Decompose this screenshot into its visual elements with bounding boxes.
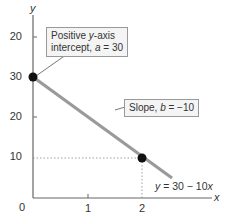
intercept-callout-line-1: Positive y-axis xyxy=(51,30,123,42)
intercept-callout-line-2: intercept, a = 30 xyxy=(51,42,123,54)
linear-equation-chart: y x 20 30 20 10 0 1 2 Positive y-axis in… xyxy=(0,0,230,223)
slope-callout: Slope, b = −10 xyxy=(124,99,199,117)
x-tick-label: 1 xyxy=(81,203,95,214)
intercept-callout: Positive y-axis intercept, a = 30 xyxy=(46,27,128,57)
y-tick-label: 20 xyxy=(0,111,22,122)
origin-label: 0 xyxy=(19,202,25,213)
x-tick-label: 2 xyxy=(135,203,149,214)
x-axis-label: x xyxy=(214,192,220,203)
equation-label: y = 30 − 10x xyxy=(155,181,213,192)
y-tick-label: 10 xyxy=(0,151,22,162)
equation-line xyxy=(33,77,172,178)
intercept-point xyxy=(29,73,38,82)
y-tick-label: 20 xyxy=(0,31,22,42)
data-point xyxy=(138,154,147,163)
y-tick-label: 30 xyxy=(0,71,22,82)
y-axis-label: y xyxy=(30,3,36,14)
